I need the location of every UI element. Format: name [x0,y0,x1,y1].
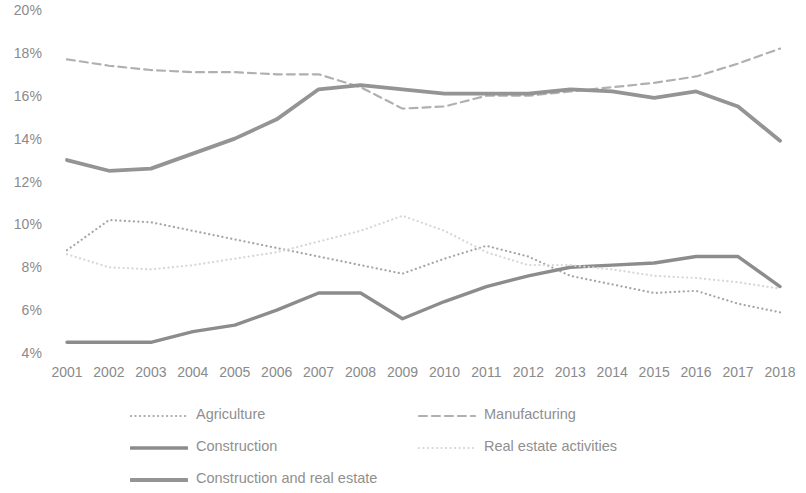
x-axis-tick-label: 2014 [597,364,628,380]
x-axis-tick-label: 2011 [471,364,501,380]
legend-entry[interactable]: Manufacturing [418,404,576,424]
x-axis-tick-label: 2006 [261,364,292,380]
x-axis-tick-label: 2017 [723,364,754,380]
x-axis-tick-label: 2005 [219,364,250,380]
legend-label: Construction and real estate [196,470,377,486]
chart-legend: AgricultureManufacturingConstructionReal… [0,398,806,493]
x-axis-tick-label: 2008 [345,364,376,380]
legend-swatch-icon [130,408,188,420]
legend-swatch-icon [418,440,476,452]
y-axis-tick-label: 14% [14,131,42,147]
y-axis-tick-label: 6% [22,302,42,318]
legend-swatch-icon [130,440,188,452]
y-axis-tick-label: 12% [14,174,42,190]
series-line [67,257,780,343]
y-axis-tick-label: 10% [14,216,42,232]
legend-entry[interactable]: Construction and real estate [130,468,377,488]
y-axis-tick-label: 8% [22,259,42,275]
line-chart: 4%6%8%10%12%14%16%18%20% 200120022003200… [0,0,806,493]
series-line [67,220,780,312]
x-axis: 2001200220032004200520062007200820092010… [0,364,806,390]
chart-canvas [0,0,806,395]
y-axis: 4%6%8%10%12%14%16%18%20% [0,0,48,370]
legend-swatch-icon [130,472,188,484]
legend-entry[interactable]: Agriculture [130,404,265,424]
x-axis-tick-label: 2016 [681,364,712,380]
x-axis-tick-label: 2015 [639,364,670,380]
x-axis-tick-label: 2018 [764,364,795,380]
plot-area: 4%6%8%10%12%14%16%18%20% 200120022003200… [0,0,806,395]
x-axis-tick-label: 2002 [93,364,124,380]
legend-entry[interactable]: Construction [130,436,277,456]
y-axis-tick-label: 4% [22,345,42,361]
legend-label: Real estate activities [484,438,617,454]
x-axis-tick-label: 2012 [513,364,544,380]
x-axis-tick-label: 2007 [303,364,334,380]
legend-label: Manufacturing [484,406,576,422]
y-axis-tick-label: 18% [14,45,42,61]
x-axis-tick-label: 2001 [51,364,82,380]
y-axis-tick-label: 20% [14,2,42,18]
series-line [67,49,780,109]
x-axis-tick-label: 2010 [429,364,460,380]
legend-swatch-icon [418,408,476,420]
y-axis-tick-label: 16% [14,88,42,104]
series-line [67,85,780,171]
legend-entry[interactable]: Real estate activities [418,436,617,456]
x-axis-tick-label: 2004 [177,364,208,380]
x-axis-tick-label: 2013 [555,364,586,380]
legend-label: Agriculture [196,406,265,422]
x-axis-tick-label: 2003 [135,364,166,380]
legend-label: Construction [196,438,277,454]
x-axis-tick-label: 2009 [387,364,418,380]
